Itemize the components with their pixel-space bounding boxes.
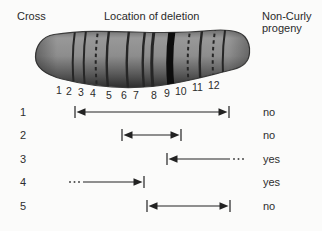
cross-number-4: 4 bbox=[20, 175, 34, 189]
band-label-10: 10 bbox=[175, 85, 187, 97]
result-cross-1: no bbox=[263, 105, 297, 119]
result-cross-5: no bbox=[263, 199, 297, 213]
deletion-arrow-cross-4 bbox=[69, 176, 144, 188]
cross-number-2: 2 bbox=[20, 128, 34, 142]
deletion-mapping-figure: Cross Location of deletion Non-Curly pro… bbox=[0, 0, 322, 231]
deletion-arrow-cross-5 bbox=[147, 200, 230, 212]
deletion-arrows bbox=[69, 106, 244, 212]
band-label-1: 1 bbox=[56, 84, 62, 96]
deletion-arrow-cross-1 bbox=[75, 106, 229, 118]
band-label-4: 4 bbox=[90, 87, 96, 99]
result-cross-3: yes bbox=[263, 152, 297, 166]
deletion-arrow-cross-2 bbox=[122, 129, 181, 141]
cross-number-3: 3 bbox=[20, 152, 34, 166]
band-label-11: 11 bbox=[192, 81, 203, 93]
band-label-9: 9 bbox=[164, 87, 170, 99]
band-label-2: 2 bbox=[66, 85, 72, 97]
cross-number-1: 1 bbox=[20, 105, 34, 119]
band-label-5: 5 bbox=[106, 89, 112, 101]
chromosome-band-8 bbox=[170, 27, 173, 93]
result-cross-2: no bbox=[263, 128, 297, 142]
band-label-8: 8 bbox=[151, 89, 157, 101]
band-label-6: 6 bbox=[121, 89, 127, 101]
cross-number-5: 5 bbox=[20, 199, 34, 213]
band-label-3: 3 bbox=[78, 86, 84, 98]
band-label-12: 12 bbox=[208, 79, 220, 91]
deletion-arrow-cross-3 bbox=[167, 153, 244, 165]
result-cross-4: yes bbox=[263, 175, 297, 189]
band-label-7: 7 bbox=[133, 89, 139, 101]
